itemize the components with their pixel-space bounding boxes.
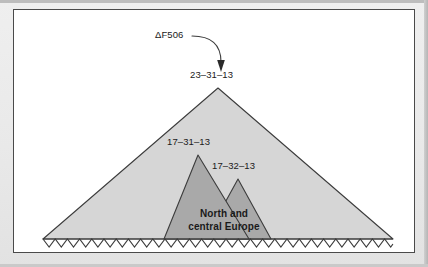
peak-label-inner-right: 17–32–13 xyxy=(212,161,255,171)
peak-label-outer: 23–31–13 xyxy=(190,70,233,80)
zigzag-baseline xyxy=(43,239,393,247)
region-label-line-1: North and xyxy=(174,208,274,221)
region-label-line-2: central Europe xyxy=(174,221,274,234)
mutation-label: ΔF506 xyxy=(155,30,184,40)
figure-panel: ΔF506 23–31–13 17–31–13 17–32–13 North a… xyxy=(13,9,415,253)
region-label: North and central Europe xyxy=(174,208,274,233)
peak-label-inner-left: 17–31–13 xyxy=(167,137,210,147)
curved-arrow-icon xyxy=(192,36,225,72)
mat-edge-top xyxy=(0,0,428,3)
mat-edge-right xyxy=(424,0,428,267)
figure-root: ΔF506 23–31–13 17–31–13 17–32–13 North a… xyxy=(0,0,428,267)
